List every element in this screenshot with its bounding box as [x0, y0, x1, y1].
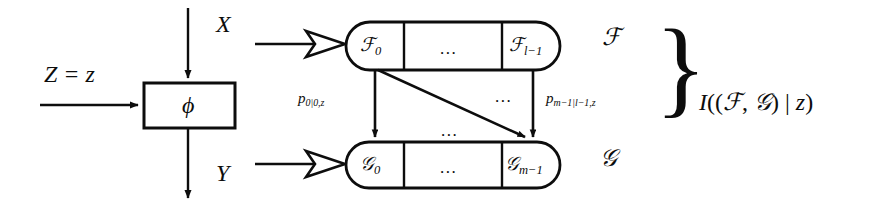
mi-open-parens: (( — [707, 89, 723, 115]
f-set-label: ℱ — [602, 25, 621, 49]
g-cell-dots: ... — [440, 159, 457, 176]
mi-g-symbol: 𝒢 — [754, 88, 771, 116]
middle-dots-upper: ... — [495, 88, 512, 105]
mi-z-symbol: z — [796, 89, 805, 115]
x-input-label: X — [216, 12, 231, 36]
mutual-information-expression: I((ℱ, 𝒢) | z) — [699, 90, 813, 114]
phi-box-label: ϕ — [182, 93, 194, 117]
f-cell-last-subscript: l−1 — [524, 44, 542, 58]
middle-dots-lower: ... — [441, 122, 458, 139]
f-cell-dots: ... — [440, 40, 457, 57]
z-input-label: Z = z — [44, 62, 95, 86]
x-to-f-hollow-arrow — [255, 31, 345, 57]
g-cell-0-subscript: 0 — [374, 163, 380, 177]
g-set-label: 𝒢 — [600, 146, 617, 170]
f-cell-0-symbol: ℱ — [360, 33, 375, 55]
g-cell-0-symbol: 𝒢 — [360, 152, 374, 174]
y-output-label: Y — [216, 161, 229, 185]
mi-comma: , — [742, 89, 754, 115]
g-cell-last: 𝒢m−1 — [505, 154, 543, 176]
mi-symbol: I — [699, 89, 707, 115]
transition-prob-right-label: pm−1|l−1,z — [546, 91, 596, 108]
f-cell-0: ℱ0 — [360, 35, 381, 57]
channel-diagram-figure: Z = z X Y ϕ ℱ0 ... ℱl−1 ℱ 𝒢0 ... 𝒢m−1 𝒢 … — [0, 0, 869, 207]
transition-prob-left-sub: 0|0,z — [306, 97, 325, 108]
transition-prob-right-sub: m−1|l−1,z — [554, 97, 596, 108]
f-cell-last-symbol: ℱ — [509, 33, 524, 55]
f-cell-0-subscript: 0 — [375, 44, 381, 58]
g-cell-0: 𝒢0 — [360, 154, 380, 176]
transition-prob-left-label: p0|0,z — [298, 91, 324, 108]
g-cell-last-symbol: 𝒢 — [505, 152, 519, 174]
mi-f-symbol: ℱ — [723, 88, 742, 116]
g-cell-last-subscript: m−1 — [519, 163, 543, 177]
y-to-g-hollow-arrow — [255, 151, 345, 177]
mi-close-paren: ) — [805, 89, 813, 115]
transition-prob-right-base: p — [546, 90, 554, 106]
f-cell-last: ℱl−1 — [509, 35, 542, 57]
transition-prob-left-base: p — [298, 90, 306, 106]
mi-conditional-bar: ) | — [771, 89, 796, 115]
